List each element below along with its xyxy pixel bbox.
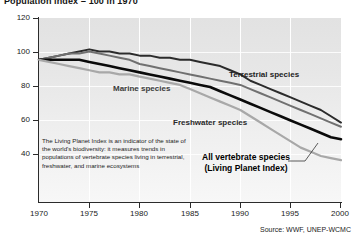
chart-figure: Population index = 100 in 1970 120 100 8… bbox=[0, 0, 357, 242]
series-label-terrestrial: Terrestrial species bbox=[229, 70, 299, 79]
series-label-all-vertebrate: All vertebrate species (Living Planet In… bbox=[184, 152, 308, 174]
series-label-marine: Marine species bbox=[113, 84, 170, 93]
source-credit: Source: WWF, UNEP-WCMC bbox=[260, 226, 351, 233]
allvert-label-line2: (Living Planet Index) bbox=[204, 163, 287, 173]
allvert-label-line1: All vertebrate species bbox=[202, 152, 290, 162]
series-label-freshwater: Freshwater species bbox=[173, 118, 247, 127]
description-text: The Living Planet Index is an indicator … bbox=[42, 137, 190, 170]
